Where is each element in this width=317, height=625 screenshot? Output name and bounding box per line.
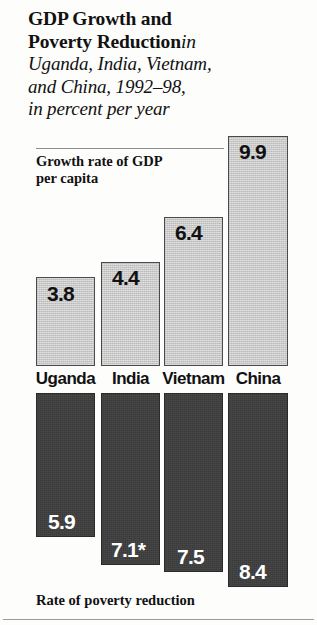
category-label-uganda: Uganda — [33, 370, 98, 388]
figure-container: GDP Growth and Poverty Reductionin Ugand… — [0, 0, 317, 625]
category-label-india: India — [100, 370, 161, 388]
bar-chart: 3.8 4.4 6.4 9.9 Uganda India Vietnam Chi… — [0, 0, 317, 625]
bar-poverty-china — [228, 393, 288, 587]
bar-value-poverty-vietnam: 7.5 — [177, 546, 204, 567]
bar-value-poverty-india: 7.1* — [111, 539, 145, 560]
bar-gdp-china — [228, 136, 288, 366]
bar-value-gdp-uganda: 3.8 — [47, 283, 74, 304]
category-label-china: China — [227, 370, 289, 388]
bar-value-gdp-vietnam: 6.4 — [175, 222, 202, 243]
bar-value-gdp-china: 9.9 — [239, 141, 266, 162]
bar-value-poverty-uganda: 5.9 — [48, 511, 75, 532]
category-label-vietnam: Vietnam — [161, 370, 226, 388]
bar-value-poverty-china: 8.4 — [239, 561, 266, 582]
bar-value-gdp-india: 4.4 — [112, 267, 139, 288]
